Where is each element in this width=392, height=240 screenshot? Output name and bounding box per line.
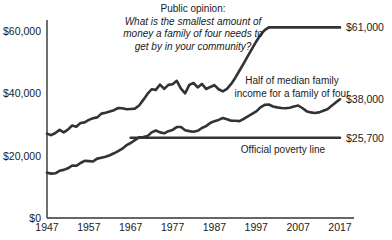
poverty-line-end-label: $25,700	[346, 132, 384, 144]
y-axis-tick-label: $40,000	[3, 87, 41, 99]
x-axis-tick-label: 1947	[35, 221, 59, 233]
y-axis-tick-label: $20,000	[3, 150, 41, 162]
public-opinion-question: Public opinion:What is the smallest amou…	[123, 3, 263, 52]
annotation-line: Public opinion:	[160, 3, 225, 14]
median-income-end-label: $38,000	[346, 93, 384, 105]
annotation-line: Official poverty line	[241, 144, 326, 155]
annotation-line: money a family of four needs to	[123, 28, 263, 39]
chart-canvas: $0$20,000$40,000$60,00019471957196719771…	[0, 0, 392, 240]
annotation-line: income for a family of four	[234, 88, 350, 99]
x-axis-tick-label: 1997	[245, 221, 269, 233]
y-axis-tick-label: $60,000	[3, 25, 41, 37]
annotation-line: get by in your community?	[135, 41, 252, 52]
public-opinion-end-label: $61,000	[346, 21, 384, 33]
x-axis-tick-label: 2007	[286, 221, 310, 233]
poverty-income-line-chart: $0$20,000$40,000$60,00019471957196719771…	[0, 0, 392, 240]
annotation-line: What is the smallest amount of	[125, 16, 263, 27]
x-axis-tick-label: 1987	[203, 221, 227, 233]
median-income-label: Half of median familyincome for a family…	[234, 75, 350, 99]
x-axis-tick-label: 1957	[77, 221, 101, 233]
poverty-line-label: Official poverty line	[241, 144, 326, 155]
x-axis-tick-label: 1967	[119, 221, 143, 233]
x-axis-tick-label: 1977	[161, 221, 185, 233]
annotation-line: Half of median family	[245, 75, 338, 86]
x-axis-tick-label: 2017	[328, 221, 352, 233]
